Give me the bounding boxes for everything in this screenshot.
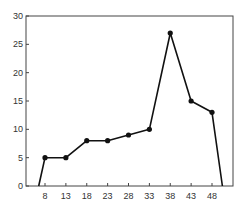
data-point-marker (63, 155, 68, 160)
line-chart: 051015202530 81318232833384348 (0, 0, 244, 212)
data-series (39, 30, 223, 186)
x-tick-label: 43 (186, 191, 196, 201)
y-tick-label: 20 (13, 68, 23, 78)
y-axis: 051015202530 (13, 11, 29, 191)
data-point-marker (147, 127, 152, 132)
x-tick-label: 13 (61, 191, 71, 201)
x-tick-label: 48 (207, 191, 217, 201)
x-tick-label: 23 (103, 191, 113, 201)
y-tick-label: 10 (13, 124, 23, 134)
data-point-marker (168, 30, 173, 35)
data-point-marker (126, 132, 131, 137)
series-line (39, 33, 223, 186)
data-point-marker (42, 155, 47, 160)
x-tick-label: 8 (42, 191, 47, 201)
x-tick-label: 38 (165, 191, 175, 201)
data-point-marker (209, 110, 214, 115)
plot-frame (26, 16, 233, 186)
y-tick-label: 15 (13, 96, 23, 106)
y-tick-label: 25 (13, 39, 23, 49)
data-point-marker (189, 98, 194, 103)
x-tick-label: 28 (123, 191, 133, 201)
x-tick-label: 33 (144, 191, 154, 201)
y-tick-label: 30 (13, 11, 23, 21)
y-tick-label: 0 (18, 181, 23, 191)
data-point-marker (105, 138, 110, 143)
y-tick-label: 5 (18, 153, 23, 163)
x-tick-label: 18 (82, 191, 92, 201)
data-point-marker (84, 138, 89, 143)
